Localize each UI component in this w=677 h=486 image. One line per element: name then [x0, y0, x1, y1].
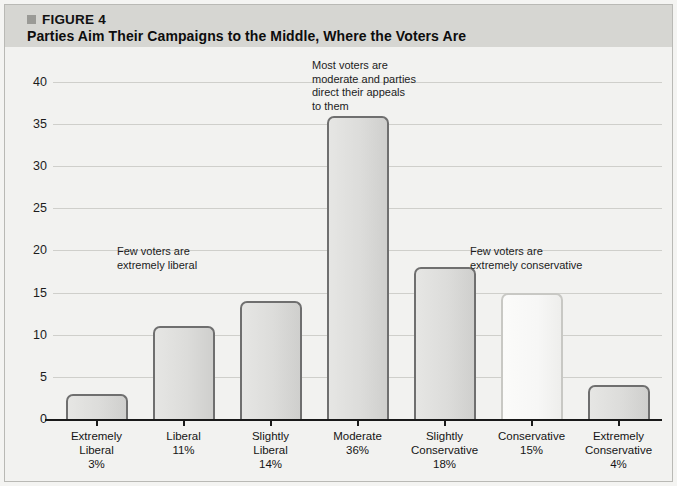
category-name: Liberal: [140, 429, 227, 443]
category-value-label: 11%: [140, 443, 227, 457]
category-name: Slightly: [401, 429, 488, 443]
annotation-line: moderate and parties: [312, 73, 432, 87]
x-axis-tick: [96, 421, 98, 426]
category-name: Extremely: [53, 429, 140, 443]
chart-plot-area: 0510152025303540 Few voters areextremely…: [5, 47, 672, 481]
annotation-line: extremely liberal: [117, 259, 247, 273]
chart-bar: [240, 301, 302, 419]
x-axis-tick: [618, 421, 620, 426]
category-name: Slightly: [227, 429, 314, 443]
category-name: Conservative: [575, 443, 662, 457]
x-axis-category-label: Moderate36%: [314, 429, 401, 457]
category-value-label: 18%: [401, 457, 488, 471]
chart-bar: [501, 293, 563, 419]
annotation-few-conservative: Few voters areextremely conservative: [470, 245, 620, 272]
category-name: Liberal: [227, 443, 314, 457]
category-name: Extremely: [575, 429, 662, 443]
category-value-label: 3%: [53, 457, 140, 471]
annotation-few-liberal: Few voters areextremely liberal: [117, 245, 247, 272]
figure-tag-row: FIGURE 4: [27, 11, 664, 27]
category-name: Conservative: [488, 429, 575, 443]
x-axis-category-label: Liberal11%: [140, 429, 227, 457]
figure-header-band: FIGURE 4 Parties Aim Their Campaigns to …: [5, 5, 672, 47]
x-axis-tick: [444, 421, 446, 426]
category-value-label: 14%: [227, 457, 314, 471]
figure-container: FIGURE 4 Parties Aim Their Campaigns to …: [0, 0, 677, 486]
category-value-label: 36%: [314, 443, 401, 457]
x-axis-category-label: ExtremelyConservative4%: [575, 429, 662, 471]
x-axis-tick: [531, 421, 533, 426]
chart-bar: [66, 394, 128, 419]
category-name: Liberal: [53, 443, 140, 457]
x-axis-tick: [183, 421, 185, 426]
category-value-label: 4%: [575, 457, 662, 471]
category-name: Conservative: [401, 443, 488, 457]
x-axis-category-label: SlightlyConservative18%: [401, 429, 488, 471]
chart-bar: [153, 326, 215, 419]
chart-bar: [327, 116, 389, 419]
category-value-label: 15%: [488, 443, 575, 457]
category-name: Moderate: [314, 429, 401, 443]
annotation-line: Few voters are: [117, 245, 247, 259]
annotation-line: direct their appeals: [312, 86, 432, 100]
square-marker-icon: [27, 15, 36, 24]
figure-number-label: FIGURE 4: [42, 12, 106, 27]
x-axis-category-label: Conservative15%: [488, 429, 575, 457]
x-axis-tick: [357, 421, 359, 426]
x-axis-category-label: ExtremelyLiberal3%: [53, 429, 140, 471]
figure-header-inner: FIGURE 4 Parties Aim Their Campaigns to …: [27, 11, 664, 44]
chart-bar: [588, 385, 650, 419]
annotation-line: extremely conservative: [470, 259, 620, 273]
chart-bar: [414, 267, 476, 419]
annotation-line: to them: [312, 100, 432, 114]
annotation-line: Few voters are: [470, 245, 620, 259]
figure-title: Parties Aim Their Campaigns to the Middl…: [27, 28, 664, 44]
chart-x-axis-line: [45, 419, 662, 421]
annotation-line: Most voters are: [312, 59, 432, 73]
x-axis-tick: [270, 421, 272, 426]
x-axis-category-label: SlightlyLiberal14%: [227, 429, 314, 471]
annotation-most-moderate: Most voters aremoderate and partiesdirec…: [312, 59, 432, 113]
